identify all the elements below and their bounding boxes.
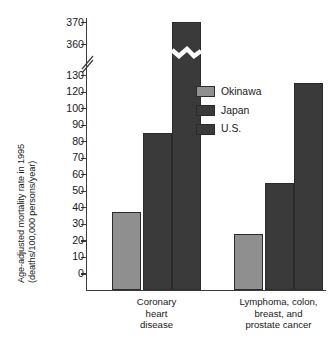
bar-us-group-2 [294,83,323,290]
x-category-label-1: Coronary heart disease [87,296,227,331]
y-tick-label: 20 [72,234,84,246]
legend-swatch-icon-japan [196,105,215,116]
y-tick-label: 360 [66,38,84,50]
legend: Okinawa Japan U.S. [196,84,292,140]
x-category-label-2: Lymphoma, colon, breast, and prostate ca… [209,296,335,331]
y-axis-title-line-1: Age-adjusted mortality rate in 1995 [16,144,27,283]
bar-chart: Age-adjusted mortality rate in 1995 (dea… [0,0,335,347]
legend-swatch-icon-us [196,124,215,135]
y-axis-line [86,18,87,291]
legend-swatch-icon-okinawa [196,86,215,97]
y-tick-label: 90 [72,118,84,130]
y-tick-label: 10 [72,250,84,262]
bar-japan-group-1 [143,133,172,290]
y-axis-title: Age-adjusted mortality rate in 1995 (dea… [0,0,46,300]
bar-japan-group-2 [265,183,294,291]
y-tick-label: 0 [78,267,84,279]
y-tick-label: 50 [72,184,84,196]
y-tick-label: 120 [66,85,84,97]
legend-item-okinawa: Okinawa [196,84,292,100]
y-tick-label: 130 [66,69,84,81]
legend-label-okinawa: Okinawa [221,86,261,98]
bar-okinawa-group-2 [234,234,263,290]
y-tick-label: 80 [72,135,84,147]
y-tick-label: 30 [72,217,84,229]
y-tick-label: 40 [72,201,84,213]
legend-label-japan: Japan [221,105,249,117]
y-axis-title-line-2: (deaths/100,000 persons/year) [27,161,38,283]
y-tick-label: 70 [72,151,84,163]
y-tick-label: 60 [72,168,84,180]
legend-label-us: U.S. [221,123,241,135]
legend-item-us: U.S. [196,122,292,138]
legend-item-japan: Japan [196,103,292,119]
y-tick-label: 370 [66,16,84,28]
bar-okinawa-group-1 [112,212,141,290]
plot-area: 3703601301201009080706050403020100 Coron… [86,18,326,291]
y-tick-label: 100 [66,102,84,114]
x-axis-line [86,290,326,291]
bar-us-group-1 [172,22,201,290]
